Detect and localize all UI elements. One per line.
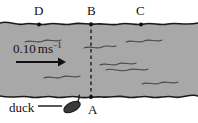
river-flow-diagram: D B C A duck 0.10ms−1	[0, 0, 198, 123]
river-water-fill	[0, 22, 198, 98]
flow-velocity-label: 0.10ms−1	[13, 42, 61, 55]
point-label-A: A	[88, 103, 97, 116]
duck-body	[62, 99, 82, 116]
point-label-D: D	[34, 4, 43, 17]
velocity-value: 0.10	[13, 41, 36, 56]
duck-label: duck	[9, 101, 34, 114]
point-label-C: C	[136, 4, 145, 17]
velocity-unit-exponent: −1	[53, 41, 62, 50]
point-label-B: B	[87, 4, 96, 17]
point-marker-B	[89, 22, 93, 26]
velocity-unit-metre: m	[38, 41, 48, 56]
point-marker-D	[37, 23, 41, 27]
point-marker-A	[89, 95, 93, 99]
point-marker-C	[139, 22, 143, 26]
